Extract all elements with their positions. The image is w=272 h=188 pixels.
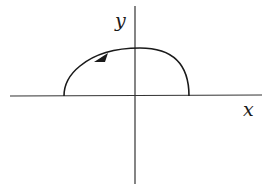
x-axis [10,95,262,96]
curve-path [64,48,189,96]
y-axis-label: y [114,9,126,31]
x-axis-label: x [243,98,254,120]
coordinate-diagram: y x [0,0,272,188]
